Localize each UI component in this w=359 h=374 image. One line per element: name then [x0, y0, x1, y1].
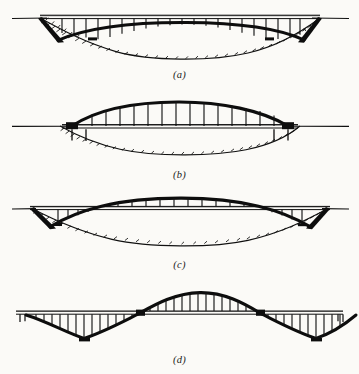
- spandrel-columns-left: [36, 314, 132, 338]
- hangers: [92, 102, 274, 126]
- terrain-profile: [60, 126, 300, 155]
- spandrel-columns: [58, 210, 302, 224]
- panel-multi-span-arch: [0, 288, 359, 346]
- panel-half-through-arch: [0, 190, 359, 252]
- caption-b: (b): [0, 170, 359, 181]
- footing-right: [265, 37, 274, 40]
- panel-through-arch: [0, 96, 359, 162]
- deck-arch-diagram: [0, 4, 359, 66]
- terrain-hatching: [61, 128, 298, 155]
- arch-rib-left: [26, 313, 140, 338]
- pier-right: [256, 310, 265, 316]
- springing-right: [282, 122, 294, 129]
- footing-left: [54, 223, 62, 226]
- center-span-posts: [150, 293, 254, 311]
- springing-left: [66, 122, 78, 129]
- deck: [30, 206, 330, 209]
- caption-a: (a): [0, 70, 359, 81]
- footing-left: [79, 338, 90, 341]
- half-through-arch-diagram: [0, 190, 359, 252]
- arch-rib: [50, 198, 310, 227]
- footing-right: [311, 338, 322, 341]
- deck: [62, 125, 298, 128]
- deck: [40, 15, 320, 18]
- arch-rib: [72, 102, 288, 126]
- caption-c: (c): [0, 260, 359, 271]
- skewback-left: [38, 17, 64, 43]
- figure-root: (a): [0, 0, 359, 374]
- pier-left: [136, 310, 145, 316]
- through-arch-diagram: [0, 96, 359, 162]
- deck: [16, 311, 343, 314]
- footing-right: [298, 223, 306, 226]
- panel-deck-arch: [0, 4, 359, 66]
- multi-span-arch-diagram: [0, 288, 359, 346]
- caption-d: (d): [0, 355, 359, 366]
- footing-left: [88, 37, 97, 40]
